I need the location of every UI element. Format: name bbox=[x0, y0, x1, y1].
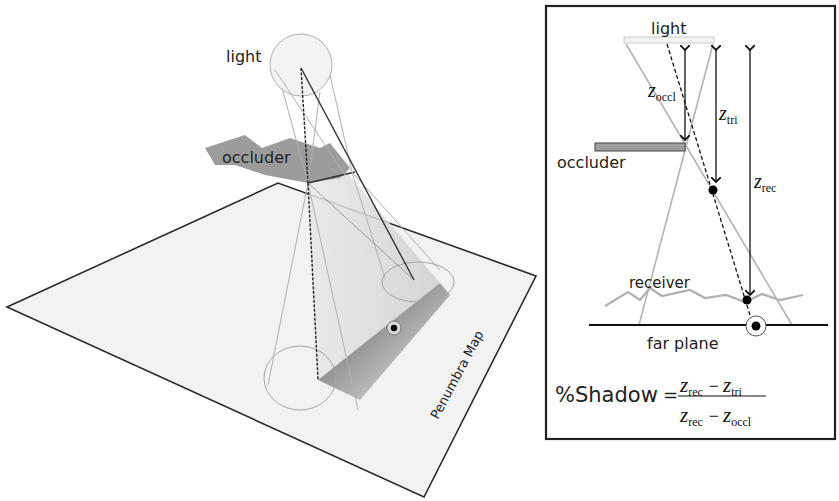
occluder-bar-right bbox=[595, 143, 685, 151]
sample-point bbox=[391, 325, 397, 331]
formula-equals: = bbox=[663, 384, 678, 405]
light-label-right: light bbox=[651, 19, 686, 38]
right-cross-section-panel: light occluder zoccl ztri zrec bbox=[546, 6, 835, 439]
penumbra-map-plane bbox=[7, 183, 536, 497]
far-plane-label: far plane bbox=[647, 334, 719, 353]
occluder-label-right: occluder bbox=[557, 153, 626, 172]
light-sphere bbox=[270, 34, 332, 96]
left-3d-diagram: light occluder Penumbra Map bbox=[7, 34, 536, 497]
shadow-diagram: light occluder Penumbra Map light occlud… bbox=[0, 0, 839, 501]
light-label: light bbox=[226, 47, 261, 66]
panel-frame bbox=[546, 6, 835, 439]
receiver-label: receiver bbox=[629, 274, 691, 292]
occluder-label: occluder bbox=[222, 148, 291, 167]
far-plane-point bbox=[752, 322, 761, 331]
triangle-point bbox=[709, 186, 718, 195]
receiver-point bbox=[743, 296, 752, 305]
formula-lhs: %Shadow bbox=[555, 383, 658, 407]
